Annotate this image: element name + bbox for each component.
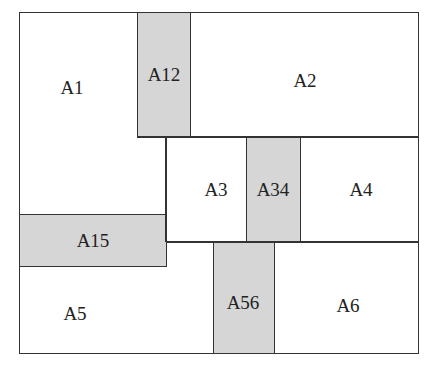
divider-a3-left [165,137,167,242]
label-a2: A2 [293,70,316,92]
label-a5: A5 [63,303,86,325]
label-a6: A6 [336,295,359,317]
label-a34: A34 [257,179,290,201]
label-a12: A12 [148,64,181,86]
label-a4: A4 [349,179,372,201]
label-a1: A1 [60,77,83,99]
label-a15: A15 [77,230,110,252]
divider-a2-bottom [137,136,419,138]
label-a56: A56 [227,292,260,314]
region-partition-diagram: A1 A12 A2 A3 A34 A4 A15 A5 A56 A6 [0,0,435,378]
divider-row-bottom [166,241,419,243]
label-a3: A3 [204,179,227,201]
